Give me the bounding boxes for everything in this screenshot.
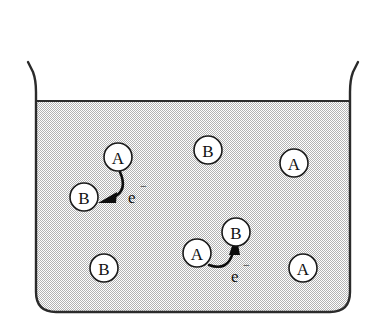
particle-b-free-2: B: [90, 254, 118, 282]
particle-b-acceptor-2: B: [222, 218, 250, 246]
particle-label: A: [112, 149, 125, 168]
particle-a-donor-1: A: [104, 143, 132, 171]
particle-label: A: [191, 245, 204, 264]
particle-label: B: [98, 260, 109, 279]
particle-b-free-1: B: [194, 136, 222, 164]
figure-canvas: e − e − A B B A B: [0, 0, 374, 332]
transfer-2-electron-charge: −: [243, 258, 250, 272]
particle-label: A: [297, 260, 310, 279]
particle-a-free-1: A: [280, 149, 308, 177]
particle-label: A: [288, 155, 301, 174]
particle-label: B: [230, 224, 241, 243]
transfer-2-electron-label: e: [231, 267, 239, 286]
beaker-electron-transfer-figure: e − e − A B B A B: [0, 0, 374, 332]
transfer-1-electron-label: e: [128, 188, 136, 207]
particle-label: B: [78, 189, 89, 208]
particle-a-donor-2: A: [183, 239, 211, 267]
particle-a-free-2: A: [289, 254, 317, 282]
particle-b-acceptor-1: B: [70, 183, 98, 211]
transfer-1-electron-charge: −: [140, 179, 147, 193]
particle-label: B: [202, 142, 213, 161]
